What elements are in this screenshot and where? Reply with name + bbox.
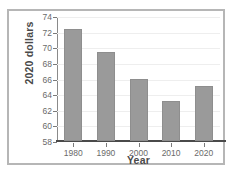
bar [130,79,148,142]
y-tick-mark [53,64,57,65]
gridline [57,17,220,18]
bar [162,101,180,141]
y-tick-label: 62 [43,106,52,116]
y-tick-label: 58 [43,137,52,147]
y-axis-title: 2020 dollars [23,5,35,101]
bar [64,29,82,141]
y-tick-mark [53,80,57,81]
y-tick-label: 60 [43,121,52,131]
y-tick-mark [53,126,57,127]
y-tick-mark [53,17,57,18]
plot-area: 586062646668707274 19801990200020102020 [57,17,220,142]
bar [195,86,213,141]
y-tick-label: 66 [43,75,52,85]
y-tick-mark [53,111,57,112]
y-tick-label: 64 [43,90,52,100]
y-tick-label: 70 [43,43,52,53]
bar [97,52,115,141]
x-tick-mark [204,143,205,147]
x-tick-mark [139,143,140,147]
x-tick-mark [73,143,74,147]
chart-figure-frame: 2020 dollars 586062646668707274 19801990… [7,9,225,165]
y-tick-label: 72 [43,28,52,38]
y-tick-label: 68 [43,59,52,69]
x-tick-mark [171,143,172,147]
y-tick-mark [53,33,57,34]
x-tick-mark [106,143,107,147]
x-axis-title: Year [57,154,220,166]
y-tick-mark [53,142,57,143]
y-tick-mark [53,48,57,49]
y-tick-label: 74 [43,12,52,22]
y-tick-mark [53,95,57,96]
